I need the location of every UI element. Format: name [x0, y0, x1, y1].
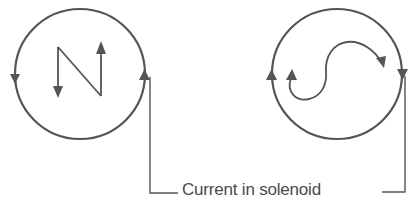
loop-arrow-down-icon [10, 74, 20, 84]
s-arrow-start-icon [286, 69, 297, 80]
current-in-solenoid-label: Current in solenoid [182, 180, 321, 200]
label-leader-lines [150, 76, 405, 193]
s-letter-icon [290, 42, 381, 100]
solenoid-pole-diagram [0, 0, 416, 204]
left-current-loop [15, 9, 145, 139]
north-pole-end [10, 9, 150, 139]
loop-arrow-up-icon [266, 69, 277, 80]
n-arrow-up-icon [96, 41, 106, 54]
south-pole-end [266, 9, 408, 139]
loop-arrow-up-icon [139, 69, 150, 80]
loop-arrow-down-icon [397, 69, 408, 80]
n-arrow-down-icon [53, 86, 63, 98]
s-arrow-end-icon [376, 56, 386, 68]
n-letter-icon [58, 47, 101, 96]
